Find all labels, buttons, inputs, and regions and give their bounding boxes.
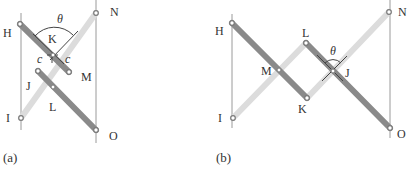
panel-b-light-bar-im [233,43,306,118]
panel-a-caption: (a) [3,151,17,164]
panel-b-label-j: J [345,67,350,79]
panel-b-label-l: L [302,27,309,39]
panel-b-pivot-k [305,96,310,101]
linkage-figure [0,0,409,175]
panel-a-label-m: M [81,71,92,83]
panel-b-caption: (b) [216,151,231,164]
panel-a-label-c-left: c [37,53,42,65]
panel-a-label-j: J [26,80,31,92]
panel-b-pivot-l [304,41,309,46]
panel-a-label-o: O [109,130,118,142]
panel-b-label-n: N [398,6,407,18]
panel-b-dark-bar-hk [232,23,307,98]
panel-b-pivot-h [230,21,235,26]
panel-a-label-theta: θ [57,13,63,25]
panel-a-label-n: N [110,6,119,18]
panel-a-pivot-o [94,128,99,133]
panel-b-pivot-j [331,69,335,73]
panel-a-pivot-i [19,116,24,121]
panel-a-pivot-l [51,85,55,89]
panel-b-label-o: O [397,128,406,140]
panel-b-drawing [230,0,393,138]
panel-b-label-m: M [261,65,272,77]
panel-a-label-l: L [49,101,56,113]
panel-a-label-i: I [6,112,10,124]
panel-a-label-h: H [3,27,12,39]
panel-a-pivot-lower-start [36,69,41,74]
panel-b-pivot-n [387,10,392,15]
panel-b-label-theta: θ [330,45,336,57]
panel-a-pivot-k [51,53,55,57]
panel-b-pivot-o [388,126,393,131]
panel-a-pivot-n [94,11,99,16]
panel-b-pivot-m [277,68,281,72]
panel-a-pivot-h [18,22,23,27]
panel-a-pivot-upper-end [67,70,72,75]
panel-b-label-i: I [218,112,222,124]
panel-a-label-k: K [48,33,57,45]
panel-a-label-c-right: c [65,53,70,65]
panel-b-label-h: H [215,25,224,37]
panel-b-label-k: K [298,103,307,115]
panel-b-pivot-i [231,116,236,121]
